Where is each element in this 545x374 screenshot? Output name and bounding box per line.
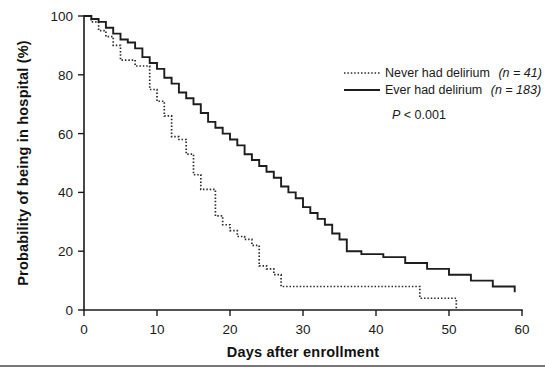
curve-dotted — [84, 16, 456, 310]
x-tick-label: 0 — [80, 322, 88, 337]
legend-label-text-1: Never had delirium — [385, 66, 490, 80]
p-value-rest: < 0.001 — [400, 108, 446, 122]
chart-curves — [84, 16, 515, 310]
y-tick-label: 60 — [58, 127, 73, 142]
y-axis-title: Probability of being in hospital (%) — [15, 40, 31, 286]
legend-n-1: (n = 41) — [498, 66, 541, 80]
x-tick-label: 30 — [295, 322, 310, 337]
x-axis-title: Days after enrollment — [227, 344, 379, 360]
chart-legend: Never had delirium (n = 41) Ever had del… — [344, 66, 542, 122]
y-tick-label: 100 — [50, 9, 73, 24]
x-tick-label: 20 — [222, 322, 237, 337]
p-value-annotation: P < 0.001 — [392, 108, 446, 122]
y-axis-ticks: 020406080100 — [50, 9, 84, 318]
x-tick-label: 50 — [441, 322, 456, 337]
y-tick-label: 20 — [58, 244, 73, 259]
legend-label-ever-had-delirium: Ever had delirium (n = 183) — [385, 83, 541, 97]
x-tick-label: 60 — [514, 322, 529, 337]
y-tick-label: 80 — [58, 68, 73, 83]
x-tick-label: 40 — [368, 322, 383, 337]
legend-n-2: (n = 183) — [491, 83, 541, 97]
x-tick-label: 10 — [149, 322, 164, 337]
x-axis-ticks: 0102030405060 — [80, 310, 529, 337]
y-tick-label: 40 — [58, 185, 73, 200]
y-tick-label: 0 — [65, 303, 73, 318]
legend-label-never-had-delirium: Never had delirium (n = 41) — [385, 66, 542, 80]
kaplan-meier-survival-chart: 020406080100 0102030405060 Probability o… — [0, 0, 545, 374]
legend-label-text-2: Ever had delirium — [385, 83, 482, 97]
curve-solid — [84, 16, 515, 292]
